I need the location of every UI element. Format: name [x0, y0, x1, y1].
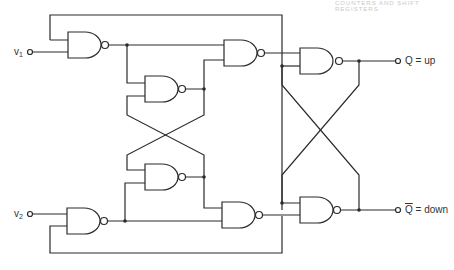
- nand-gate-a: [68, 32, 109, 58]
- circuit-diagram: [0, 0, 454, 270]
- label-v1: v1: [14, 47, 23, 58]
- terminal-v2: [28, 212, 33, 217]
- terminal-v1: [28, 50, 33, 55]
- nand-gate-c: [224, 40, 265, 66]
- nand-gate-g: [222, 202, 263, 228]
- label-qbar-down: Q = down: [405, 205, 448, 215]
- nand-gate-h: [300, 197, 341, 223]
- nand-gate-f: [145, 164, 186, 190]
- wire-top-vertical-cross: [282, 66, 359, 210]
- wire-q-cross: [282, 61, 359, 203]
- label-v2: v2: [14, 209, 23, 220]
- wire-b-out: [127, 60, 224, 170]
- terminal-q: [396, 59, 401, 64]
- label-q-up: Q = up: [405, 56, 435, 66]
- nand-gate-d: [300, 48, 343, 74]
- terminal-qbar: [396, 208, 401, 213]
- nand-gate-b: [145, 76, 186, 102]
- nand-gate-e: [67, 208, 108, 234]
- wire-a-to-b: [127, 45, 145, 83]
- wire-e-to-f: [125, 183, 145, 221]
- wire-f-out: [186, 177, 222, 208]
